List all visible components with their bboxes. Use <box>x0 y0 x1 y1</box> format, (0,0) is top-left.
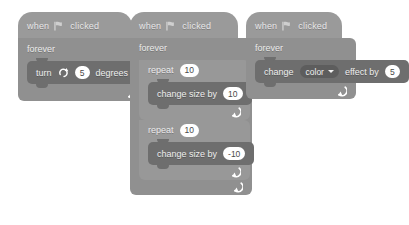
when-flag-clicked-block[interactable]: when clicked <box>246 12 342 38</box>
change-size-label: change size by <box>157 149 217 159</box>
repeat-header-2: repeat 10 <box>139 120 250 142</box>
change-size-by-block-2[interactable]: change size by -10 <box>148 142 254 165</box>
change-size-label: change size by <box>157 89 217 99</box>
forever-label: forever <box>27 44 55 54</box>
turn-label: turn <box>36 68 52 78</box>
when-label: when <box>27 21 49 31</box>
script-size[interactable]: when clicked forever repeat 10 <box>130 12 252 195</box>
loop-arrow-icon <box>229 106 241 118</box>
change-effect-by-block[interactable]: change color effect by 5 <box>255 60 409 83</box>
turn-right-block[interactable]: turn 5 degrees <box>27 61 137 84</box>
green-flag-icon <box>54 21 65 31</box>
repeat-body-2: change size by -10 <box>139 142 250 165</box>
repeat-header-1: repeat 10 <box>139 60 250 82</box>
forever-block[interactable]: forever change color effect by 5 <box>246 38 356 99</box>
clicked-label: clicked <box>182 21 211 31</box>
forever-body: repeat 10 change size by 10 <box>130 60 252 180</box>
forever-footer <box>130 180 252 195</box>
repeat-label: repeat <box>148 65 174 75</box>
repeat-times-input[interactable]: 10 <box>180 64 199 77</box>
forever-body: turn 5 degrees <box>18 61 146 84</box>
effect-value-input[interactable]: 5 <box>385 65 400 78</box>
green-flag-icon <box>282 21 293 31</box>
when-label: when <box>139 21 161 31</box>
loop-arrow-icon <box>229 166 241 178</box>
effect-dropdown-value: color <box>306 67 324 77</box>
repeat-body-1: change size by 10 <box>139 82 250 105</box>
when-label: when <box>255 21 277 31</box>
effect-by-label: effect by <box>345 67 379 77</box>
forever-body: change color effect by 5 <box>246 60 356 83</box>
change-size-value-input[interactable]: -10 <box>223 147 245 160</box>
clicked-label: clicked <box>70 21 99 31</box>
loop-arrow-icon <box>335 85 347 97</box>
change-size-value-input[interactable]: 10 <box>223 87 242 100</box>
effect-dropdown[interactable]: color <box>300 65 339 78</box>
forever-label: forever <box>255 43 283 53</box>
when-flag-clicked-block[interactable]: when clicked <box>18 12 132 38</box>
green-flag-icon <box>166 21 177 31</box>
clicked-label: clicked <box>298 21 327 31</box>
forever-block[interactable]: forever turn 5 degrees <box>18 38 146 101</box>
chevron-down-icon <box>328 70 334 73</box>
degrees-label: degrees <box>96 68 129 78</box>
forever-label: forever <box>139 43 167 53</box>
repeat-times-input[interactable]: 10 <box>180 124 199 137</box>
when-flag-clicked-block[interactable]: when clicked <box>130 12 238 38</box>
repeat-block-2[interactable]: repeat 10 change size by -10 <box>139 120 250 180</box>
loop-arrow-icon <box>231 181 243 193</box>
change-label: change <box>264 67 294 77</box>
repeat-footer-2 <box>139 165 250 180</box>
repeat-footer-1 <box>139 105 250 120</box>
forever-footer <box>246 83 356 99</box>
turn-clockwise-icon <box>58 67 69 78</box>
repeat-block-1[interactable]: repeat 10 change size by 10 <box>139 60 250 120</box>
forever-header: forever <box>246 38 356 60</box>
forever-header: forever <box>130 38 252 60</box>
forever-footer <box>18 84 146 101</box>
turn-degrees-input[interactable]: 5 <box>75 66 90 79</box>
change-size-by-block-1[interactable]: change size by 10 <box>148 82 252 105</box>
script-turn[interactable]: when clicked forever turn <box>18 12 146 101</box>
repeat-label: repeat <box>148 125 174 135</box>
script-color[interactable]: when clicked forever change color <box>246 12 356 99</box>
forever-block[interactable]: forever repeat 10 change size by 10 <box>130 38 252 195</box>
